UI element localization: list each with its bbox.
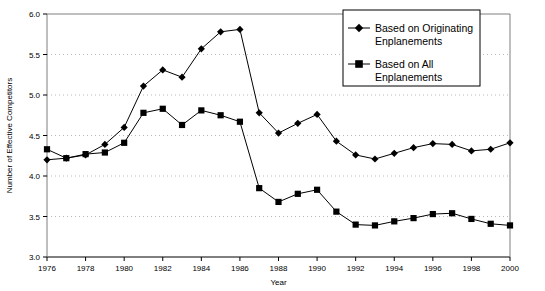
x-tick-label-1992: 1992 [347, 264, 365, 273]
x-tick-label-1978: 1978 [77, 264, 95, 273]
marker-square [256, 185, 262, 191]
marker-square [410, 215, 416, 221]
marker-square [121, 140, 127, 146]
y-tick-label-5.5: 5.5 [29, 51, 41, 60]
marker-square [237, 119, 243, 125]
legend-label-1-line1: Based on Originating [375, 22, 473, 34]
legend-label-1-line2: Enplanements [375, 35, 442, 47]
marker-square [468, 216, 474, 222]
y-tick-label-3.0: 3.0 [29, 253, 41, 262]
chart-container: 3.03.54.04.55.05.56.01976197819801982198… [0, 0, 545, 291]
legend: Based on OriginatingEnplanementsBased on… [343, 10, 480, 86]
marker-square [449, 210, 455, 216]
marker-square [488, 221, 494, 227]
marker-square [430, 211, 436, 217]
x-tick-label-1988: 1988 [270, 264, 288, 273]
x-tick-label-1996: 1996 [424, 264, 442, 273]
y-axis-title: Number of Effective Competitors [5, 78, 14, 193]
x-tick-label-1980: 1980 [115, 264, 133, 273]
x-tick-label-1986: 1986 [231, 264, 249, 273]
x-tick-label-1982: 1982 [154, 264, 172, 273]
marker-square [275, 199, 281, 205]
x-tick-label-1976: 1976 [38, 264, 56, 273]
x-tick-label-2000: 2000 [501, 264, 519, 273]
x-tick-label-1998: 1998 [463, 264, 481, 273]
legend-marker-square [355, 60, 363, 68]
marker-square [198, 107, 204, 113]
y-tick-label-4.0: 4.0 [29, 172, 41, 181]
line-chart: 3.03.54.04.55.05.56.01976197819801982198… [0, 0, 545, 291]
marker-square [102, 149, 108, 155]
marker-square [372, 222, 378, 228]
y-tick-label-6.0: 6.0 [29, 10, 41, 19]
y-tick-label-5.0: 5.0 [29, 91, 41, 100]
marker-square [295, 191, 301, 197]
marker-square [333, 209, 339, 215]
x-tick-label-1994: 1994 [385, 264, 403, 273]
legend-label-2-line1: Based on All [375, 58, 433, 70]
marker-square [44, 146, 50, 152]
marker-square [507, 222, 513, 228]
marker-square [179, 122, 185, 128]
y-tick-label-3.5: 3.5 [29, 213, 41, 222]
x-tick-label-1990: 1990 [308, 264, 326, 273]
marker-square [314, 187, 320, 193]
legend-label-2-line2: Enplanements [375, 71, 442, 83]
x-axis-title: Year [270, 278, 287, 287]
marker-square [160, 106, 166, 112]
marker-square [140, 110, 146, 116]
marker-square [353, 222, 359, 228]
x-tick-label-1984: 1984 [192, 264, 210, 273]
marker-square [63, 155, 69, 161]
y-tick-label-4.5: 4.5 [29, 132, 41, 141]
marker-square [82, 151, 88, 157]
marker-square [391, 218, 397, 224]
marker-square [218, 112, 224, 118]
